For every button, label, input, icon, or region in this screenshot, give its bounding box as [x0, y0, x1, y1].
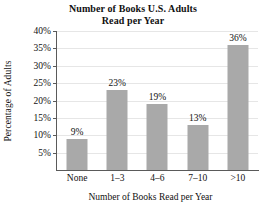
- plot-area: 5%10%15%20%25%30%35%40% 9%None23%1–319%4…: [57, 31, 258, 170]
- bar: [227, 45, 248, 170]
- y-axis-tick-label: 30%: [11, 61, 51, 71]
- bar-chart-figure: Number of Books U.S. Adults Read per Yea…: [0, 0, 266, 212]
- x-axis-tick-label: >10: [230, 173, 245, 183]
- y-axis-tick-label: 5%: [11, 148, 51, 158]
- y-axis-tick-label: 10%: [11, 130, 51, 140]
- bar: [67, 139, 88, 170]
- bar-value-label: 23%: [109, 78, 126, 89]
- bar: [107, 90, 128, 170]
- bar-group: 13%7–10: [178, 31, 218, 170]
- y-axis-tick-label: 25%: [11, 78, 51, 88]
- bar: [187, 125, 208, 170]
- bar-group: 9%None: [57, 31, 97, 170]
- bar-group: 36%>10: [218, 31, 258, 170]
- y-axis-tick-label: 35%: [11, 43, 51, 53]
- bar-value-label: 36%: [229, 33, 246, 44]
- x-axis-line: [56, 170, 259, 171]
- bar-value-label: 13%: [189, 113, 206, 124]
- chart-title-line-1: Number of Books U.S. Adults: [0, 3, 266, 15]
- x-axis-tick-label: 4–6: [150, 173, 164, 183]
- bar-group: 23%1–3: [97, 31, 137, 170]
- y-axis-tick-label: 15%: [11, 113, 51, 123]
- bar-value-label: 19%: [149, 92, 166, 103]
- x-axis-tick-label: 7–10: [188, 173, 207, 183]
- x-axis-tick-label: None: [67, 173, 88, 183]
- chart-title-line-2: Read per Year: [0, 15, 266, 27]
- bar-value-label: 9%: [71, 127, 84, 138]
- x-axis-tick-label: 1–3: [110, 173, 124, 183]
- x-axis-title: Number of Books Read per Year: [35, 192, 266, 202]
- chart-title: Number of Books U.S. Adults Read per Yea…: [0, 3, 266, 26]
- bar: [147, 104, 168, 170]
- bar-group: 19%4–6: [137, 31, 177, 170]
- y-axis-tick-label: 20%: [11, 96, 51, 106]
- y-axis-tick-label: 40%: [11, 26, 51, 36]
